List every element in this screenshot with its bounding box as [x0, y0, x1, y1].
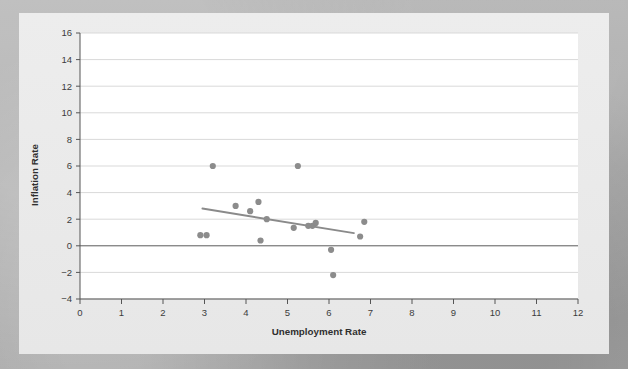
y-axis	[76, 33, 80, 299]
data-point	[210, 163, 216, 169]
x-tick-label: 10	[490, 307, 501, 318]
data-point	[264, 216, 270, 222]
data-point	[197, 232, 203, 238]
scatter-plot: −4−20246810121416 0123456789101112 Unemp…	[19, 13, 609, 354]
y-tick-label: 14	[61, 54, 72, 65]
x-axis	[80, 299, 578, 304]
x-tick-label: 3	[202, 307, 207, 318]
y-tick-label: 2	[67, 214, 72, 225]
chart-canvas: −4−20246810121416 0123456789101112 Unemp…	[19, 13, 609, 354]
data-point	[361, 219, 367, 225]
x-tick-label: 6	[326, 307, 331, 318]
chart-panel: −4−20246810121416 0123456789101112 Unemp…	[19, 13, 609, 354]
y-tick-label: 4	[67, 187, 72, 198]
data-point	[233, 203, 239, 209]
y-tick-label: 0	[67, 240, 72, 251]
data-point	[295, 163, 301, 169]
y-tick-label: 10	[61, 107, 72, 118]
x-tick-label: 5	[285, 307, 290, 318]
x-tick-label: 8	[409, 307, 414, 318]
data-point	[328, 247, 334, 253]
data-point	[203, 232, 209, 238]
y-tick-label: −2	[61, 267, 72, 278]
data-point	[313, 220, 319, 226]
x-tick-label: 11	[532, 307, 542, 318]
x-tick-label: 9	[451, 307, 456, 318]
x-tick-label: 7	[368, 307, 373, 318]
data-point	[255, 199, 261, 205]
data-point	[291, 225, 297, 231]
x-tick-label: 1	[119, 307, 124, 318]
x-tick-labels: 0123456789101112	[77, 307, 583, 318]
data-point	[247, 208, 253, 214]
y-tick-labels: −4−20246810121416	[61, 27, 72, 304]
data-point	[357, 233, 363, 239]
x-tick-label: 12	[573, 307, 584, 318]
x-tick-label: 0	[77, 307, 82, 318]
y-axis-title: Inflation Rate	[29, 143, 40, 206]
y-tick-label: 12	[61, 81, 72, 92]
data-point	[257, 237, 263, 243]
data-point	[330, 272, 336, 278]
x-tick-label: 4	[243, 307, 248, 318]
y-tick-label: 8	[67, 134, 72, 145]
x-tick-label: 2	[160, 307, 165, 318]
x-axis-title: Unemployment Rate	[272, 326, 367, 337]
y-tick-label: 6	[67, 160, 72, 171]
y-tick-label: 16	[61, 27, 72, 38]
y-tick-label: −4	[61, 293, 72, 304]
